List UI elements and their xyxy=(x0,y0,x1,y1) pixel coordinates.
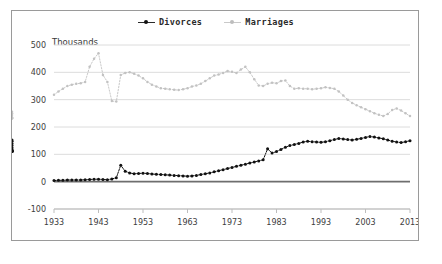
y-axis-tick-label: 500 xyxy=(31,41,46,50)
legend-marker-marriages-icon xyxy=(224,22,241,23)
series-divorces xyxy=(12,135,412,182)
x-axis-tick-label: 1993 xyxy=(311,218,331,227)
chart-svg: -100010020030040050019331943195319631973… xyxy=(12,33,418,240)
x-axis-tick-label: 2013 xyxy=(400,218,418,227)
x-axis-tick-label: 2003 xyxy=(355,218,375,227)
x-axis-tick-label: 1963 xyxy=(177,218,197,227)
y-axis-tick-label: 300 xyxy=(31,96,46,105)
y-axis-tick-label: 0 xyxy=(41,178,46,187)
x-axis-tick-label: 1953 xyxy=(133,218,153,227)
y-axis-tick-label: 100 xyxy=(31,150,46,159)
plot-area: Thousands -10001002003004005001933194319… xyxy=(12,33,418,240)
x-axis-tick-label: 1983 xyxy=(266,218,286,227)
x-axis-tick-label: 1933 xyxy=(44,218,64,227)
y-axis-tick-label: 200 xyxy=(31,123,46,132)
legend-marker-divorces-icon xyxy=(138,22,155,23)
x-axis-tick-label: 1973 xyxy=(222,218,242,227)
chart-frame: Divorces Marriages Thousands -1000100200… xyxy=(11,10,419,241)
x-axis-tick-label: 1943 xyxy=(88,218,108,227)
legend-label-divorces: Divorces xyxy=(159,17,202,27)
legend-item-marriages[interactable]: Marriages xyxy=(224,17,294,27)
y-axis-tick-label: 400 xyxy=(31,68,46,77)
chart-legend: Divorces Marriages xyxy=(12,11,420,33)
legend-item-divorces[interactable]: Divorces xyxy=(138,17,202,27)
series-marriages xyxy=(12,52,411,120)
y-axis-tick-label: -100 xyxy=(28,205,46,214)
legend-label-marriages: Marriages xyxy=(245,17,294,27)
